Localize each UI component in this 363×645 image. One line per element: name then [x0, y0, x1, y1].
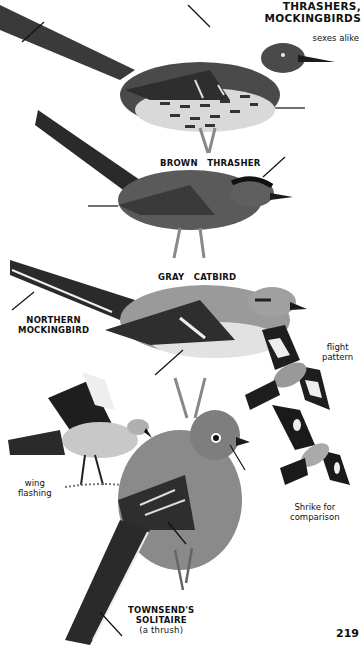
section-title-line2: MOCKINGBIRDS: [265, 12, 361, 24]
label-townsends-solitaire: TOWNSEND'S SOLITAIRE (a thrush): [128, 605, 194, 635]
shrike-comparison-line2: comparison: [290, 512, 340, 522]
label-northern-mockingbird: NORTHERN MOCKINGBIRD: [18, 315, 89, 335]
gray-catbird-word2: CATBIRD: [194, 272, 237, 282]
brown-thrasher-word1: BROWN: [160, 158, 198, 168]
brown-thrasher-word2: THRASHER: [207, 158, 260, 168]
caption-shrike-comparison: Shrike for comparison: [290, 502, 340, 522]
section-title: THRASHERS, MOCKINGBIRDS: [265, 0, 361, 24]
shrike-illustration: [272, 405, 350, 485]
townsends-solitaire-line2: SOLITAIRE: [128, 615, 194, 625]
sexes-alike-note: sexes alike: [313, 33, 359, 43]
page-number: 219: [336, 627, 359, 640]
flight-pattern-line2: pattern: [322, 352, 353, 362]
shrike-comparison-line1: Shrike for: [290, 502, 340, 512]
caption-wing-flashing: wing flashing: [18, 478, 52, 498]
label-brown-thrasher: BROWN THRASHER: [160, 158, 260, 168]
section-title-line1: THRASHERS,: [265, 0, 361, 12]
northern-mockingbird-line2: MOCKINGBIRD: [18, 325, 89, 335]
caption-flight-pattern: flight pattern: [322, 342, 353, 362]
wing-flashing-line2: flashing: [18, 488, 52, 498]
flight-pattern-line1: flight: [322, 342, 353, 352]
townsends-solitaire-line3: (a thrush): [128, 625, 194, 635]
townsends-solitaire-line1: TOWNSEND'S: [128, 605, 194, 615]
gray-catbird-illustration: [35, 110, 293, 258]
gray-catbird-word1: GRAY: [158, 272, 184, 282]
northern-mockingbird-line1: NORTHERN: [18, 315, 89, 325]
label-gray-catbird: GRAY CATBIRD: [158, 272, 236, 282]
wing-flashing-line1: wing: [18, 478, 52, 488]
